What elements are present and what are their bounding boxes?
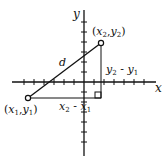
hypotenuse-d <box>28 43 101 98</box>
point-2 <box>98 40 103 45</box>
distance-diagram: x y d (x2,y2) (x1,y1) y2 - y1 x2 - x1 <box>0 0 168 168</box>
horizontal-leg-label: x2 - x1 <box>59 100 91 114</box>
right-angle-marker <box>95 92 101 98</box>
point-2-label: (x2,y2) <box>92 25 125 39</box>
segment-label-d: d <box>59 56 66 69</box>
x-axis-label: x <box>155 81 162 95</box>
vertical-leg-label: y2 - y1 <box>105 63 138 77</box>
point-1 <box>25 95 30 100</box>
point-1-label: (x1,y1) <box>4 103 37 117</box>
y-axis-label: y <box>72 7 80 21</box>
